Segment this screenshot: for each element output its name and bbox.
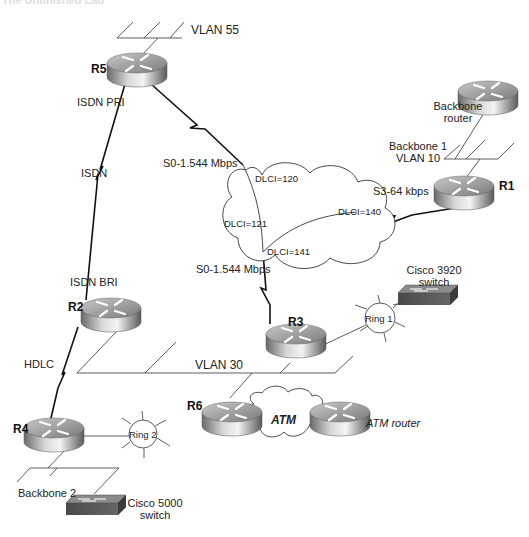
cisco5000-label-line2: switch [125, 509, 185, 521]
r5-label: R5 [91, 63, 106, 75]
backbone-router-label-line1: Backbone [430, 100, 486, 112]
router-atm[interactable] [310, 402, 370, 436]
r2-label: R2 [68, 301, 83, 313]
backbone-router-label-line2: router [430, 112, 486, 124]
link-r5-fr [151, 84, 243, 165]
ring1 [317, 295, 410, 348]
link-r5-r2-isdn [86, 84, 125, 300]
r6-label: R6 [187, 400, 202, 412]
r3-label: R3 [288, 316, 303, 328]
router-r3[interactable] [266, 324, 326, 358]
vlan55-segment [117, 22, 184, 55]
cisco3920-label: Cisco 3920 switch [406, 264, 462, 288]
s3-label: S3-64 kbps [373, 185, 429, 197]
ring1-label: Ring 1 [365, 313, 392, 325]
dlci-141-label: DLCI=141 [267, 246, 310, 258]
dlci-121-label: DLCI=121 [224, 218, 267, 230]
backbone1-label-line2: VLAN 10 [386, 152, 450, 164]
router-r4[interactable] [24, 418, 84, 452]
cisco3920-label-line1: Cisco 3920 [406, 264, 462, 276]
hdlc-label: HDLC [24, 358, 54, 370]
cisco5000-label: Cisco 5000 switch [125, 497, 185, 521]
router-r6[interactable] [202, 402, 262, 436]
dlci-140-label: DLCI=140 [338, 206, 381, 218]
router-r2[interactable] [81, 298, 141, 332]
backbone-router-label: Backbone router [430, 100, 486, 124]
cisco3920-label-line2: switch [406, 276, 462, 288]
s0-top-label: S0-1.544 Mbps [163, 157, 238, 169]
atm-cloud-label: ATM [271, 414, 296, 426]
dlci-120-label: DLCI=120 [255, 173, 298, 185]
router-r5[interactable] [107, 53, 167, 87]
isdn-bri-label: ISDN BRI [70, 276, 118, 288]
backbone2-label: Backbone 2 [18, 487, 76, 499]
backbone1-label-line1: Backbone 1 [386, 140, 450, 152]
vlan30-label: VLAN 30 [195, 359, 243, 371]
r1-label: R1 [499, 180, 514, 192]
atm-router-label: ATM router [366, 417, 420, 429]
switch-cisco3920[interactable] [398, 285, 458, 305]
vlan55-label: VLAN 55 [191, 24, 239, 36]
page-title: The Unfinished Lab [2, 0, 104, 6]
isdn-label: ISDN [81, 167, 107, 179]
backbone1-label: Backbone 1 VLAN 10 [386, 140, 450, 164]
ring2-label: Ring 2 [129, 429, 156, 441]
s0-bottom-label: S0-1.544 Mbps [196, 263, 271, 275]
router-r1[interactable] [434, 176, 494, 210]
isdn-pri-label: ISDN PRI [77, 96, 125, 108]
cisco5000-label-line1: Cisco 5000 [125, 497, 185, 509]
r4-label: R4 [13, 423, 28, 435]
